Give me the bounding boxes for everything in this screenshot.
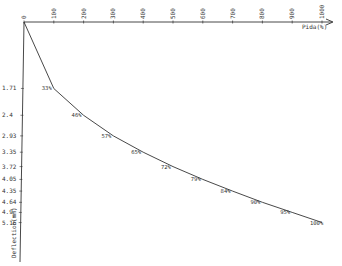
x-tick-label: 600 — [199, 8, 206, 19]
point-label: 84% — [221, 188, 232, 194]
x-tick-label: 300 — [109, 8, 116, 19]
y-tick-label: 2.93 — [2, 132, 17, 139]
y-tick-label: 4.64 — [2, 198, 17, 205]
point-label: 79% — [191, 176, 202, 182]
y-tick-label: 3.35 — [2, 148, 17, 155]
point-label: 57% — [101, 133, 112, 139]
point-label: 90% — [250, 199, 261, 205]
x-tick-label: 500 — [169, 8, 176, 19]
x-tick-label: 0 — [20, 15, 27, 19]
y-axis-title: Deflection(mm) — [10, 207, 17, 258]
y-tick-label: 3.72 — [2, 163, 17, 170]
x-tick-label: 700 — [229, 8, 236, 19]
y-tick-label: 2.4 — [2, 111, 13, 118]
x-axis-title: Pida(%) — [302, 23, 327, 30]
y-tick-label: 1.71 — [2, 84, 17, 91]
point-label: 72% — [161, 164, 172, 170]
x-tick-label: 800 — [258, 8, 265, 19]
x-tick-label: 200 — [80, 8, 87, 19]
data-line — [24, 22, 322, 223]
y-tick-label: 4.05 — [2, 175, 17, 182]
x-tick-label: 1000 — [318, 4, 325, 19]
point-label: 95% — [280, 209, 291, 215]
point-labels: 33%46%57%65%72%79%84%90%95%100% — [42, 85, 324, 225]
point-label: 100% — [310, 220, 324, 226]
x-tick-label: 400 — [139, 8, 146, 19]
axes — [20, 19, 333, 262]
point-label: 65% — [131, 149, 142, 155]
x-tick-label: 900 — [288, 8, 295, 19]
point-label: 33% — [42, 85, 53, 91]
x-tick-label: 100 — [50, 8, 57, 19]
point-label: 46% — [72, 112, 83, 118]
y-tick-label: 4.35 — [2, 187, 17, 194]
x-axis-ticks: 01002003004005006007008009001000 — [20, 4, 325, 23]
deflection-chart: 01002003004005006007008009001000 1.712.4… — [0, 0, 342, 266]
